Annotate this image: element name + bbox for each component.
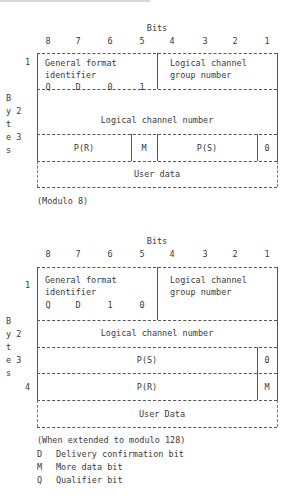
general-format-identifier-label: identifier [45, 70, 96, 80]
frame-left [37, 267, 38, 400]
frame-left [37, 53, 38, 161]
field-divider [257, 347, 258, 400]
field-divider [157, 267, 158, 320]
byte-number: 4 [25, 382, 30, 392]
bit-number: 6 [107, 36, 112, 46]
row-divider [37, 347, 277, 348]
top-edge-artifact [0, 0, 150, 2]
d-bit: D [75, 300, 80, 310]
legend-text: Qualifier bit [56, 475, 123, 485]
bit-number: 5 [139, 36, 144, 46]
row-divider [37, 320, 277, 321]
frame-left-dashed [37, 161, 38, 187]
bit-number: 4 [169, 36, 174, 46]
general-format-identifier-label: General format [45, 58, 117, 68]
bit-number: 4 [169, 249, 174, 259]
legend-key: D [37, 449, 42, 459]
row-divider [37, 373, 277, 374]
gfi-bit: 0 [139, 300, 144, 310]
general-format-identifier-label: identifier [45, 287, 96, 297]
zero-bit: 0 [264, 143, 269, 153]
p-s-field: P(S) [197, 143, 217, 153]
bit-number: 3 [202, 249, 207, 259]
user-data: User data [134, 169, 180, 179]
field-divider [131, 134, 132, 161]
frame-right [277, 53, 278, 161]
m-bit: M [264, 382, 269, 392]
bit-number: 2 [232, 249, 237, 259]
bit-number: 7 [75, 36, 80, 46]
byte-number: 1 [25, 57, 30, 67]
bits-title: Bits [147, 23, 167, 33]
bit-number: 8 [45, 36, 50, 46]
bit-number: 5 [139, 249, 144, 259]
bit-number: 6 [107, 249, 112, 259]
gfi-bit: 0 [107, 82, 112, 92]
field-divider [257, 134, 258, 161]
frame-right-dashed [277, 400, 278, 427]
p-s-field: P(S) [137, 355, 157, 365]
user-data: User Data [139, 409, 185, 419]
general-format-identifier-label: General format [45, 275, 117, 285]
legend-key: Q [37, 475, 42, 485]
logical-channel-group-label: Logical channel [170, 275, 247, 285]
bytes-axis-label: B y 2 t e 3 s [6, 92, 21, 157]
p-r-field: P(R) [74, 143, 94, 153]
gfi-bit: 1 [139, 82, 144, 92]
logical-channel-number: Logical channel number [101, 115, 214, 125]
q-bit: Q [45, 300, 50, 310]
row-divider [37, 187, 277, 188]
frame-left-dashed [37, 400, 38, 427]
modulo-note: (When extended to modulo 128) [37, 435, 185, 445]
q-bit: Q [45, 82, 50, 92]
bit-number: 1 [264, 249, 269, 259]
row-divider [37, 89, 277, 90]
frame-right-dashed [277, 161, 278, 187]
gfi-bit: 1 [107, 300, 112, 310]
bit-number: 1 [264, 36, 269, 46]
row-divider [37, 161, 277, 162]
field-divider [157, 53, 158, 89]
zero-bit: 0 [264, 355, 269, 365]
bytes-axis-label: B y 2 t e 3 s [6, 315, 21, 380]
p-r-field: P(R) [137, 382, 157, 392]
logical-channel-number: Logical channel number [101, 328, 214, 338]
bits-title: Bits [147, 236, 167, 246]
modulo-note: (Modulo 8) [37, 196, 88, 206]
row-divider [37, 400, 277, 401]
d-bit: D [75, 82, 80, 92]
field-divider [157, 134, 158, 161]
logical-channel-group-label: Logical channel [170, 58, 247, 68]
bit-number: 2 [232, 36, 237, 46]
frame-right [277, 267, 278, 400]
legend-key: M [37, 462, 42, 472]
logical-channel-group-label: group number [170, 287, 231, 297]
legend-text: Delivery confirmation bit [56, 449, 184, 459]
legend-text: More data bit [56, 462, 123, 472]
row-divider [37, 427, 277, 428]
byte-number: 1 [25, 280, 30, 290]
logical-channel-group-label: group number [170, 70, 231, 80]
bit-number: 8 [45, 249, 50, 259]
m-bit: M [141, 143, 146, 153]
bit-number: 7 [75, 249, 80, 259]
bit-number: 3 [202, 36, 207, 46]
